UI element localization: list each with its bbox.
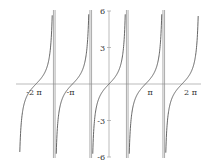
plot-canvas: 63-3-6-2 π-ππ2 π <box>0 0 209 167</box>
x-tick-label: -2 π <box>26 88 42 97</box>
tan-plot: 63-3-6-2 π-ππ2 π <box>0 0 209 167</box>
y-tick-label: 3 <box>100 44 105 53</box>
x-tick-label: -π <box>67 88 75 97</box>
x-tick-label: 2 π <box>184 88 197 97</box>
y-tick-label: -6 <box>97 153 105 162</box>
y-tick-label: 6 <box>100 7 105 16</box>
y-tick-label: -3 <box>97 117 105 126</box>
x-tick-label: π <box>148 88 153 97</box>
